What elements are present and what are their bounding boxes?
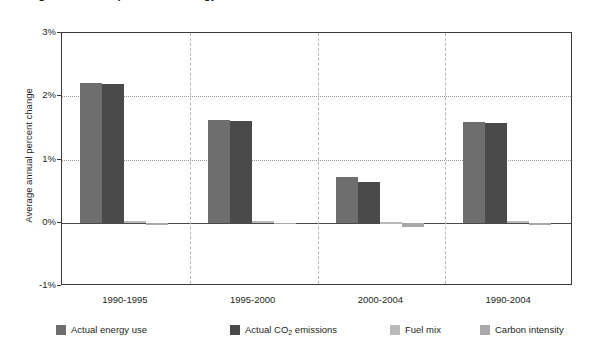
legend-item[interactable]: Actual energy use [56, 322, 147, 338]
group-separator [190, 33, 191, 284]
x-axis-tick-label: 1990-1995 [61, 294, 189, 305]
legend-label: Actual energy use [71, 324, 147, 336]
bar [124, 221, 146, 223]
legend-label: Carbon intensity [495, 324, 564, 336]
bar [230, 121, 252, 223]
bar [358, 182, 380, 223]
legend-label: Actual CO2 emissions [245, 324, 337, 337]
x-axis-tick-label: 1995-2000 [189, 294, 317, 305]
y-axis-tick-label: 0% [20, 216, 56, 227]
bar [252, 221, 274, 223]
bar [402, 223, 424, 227]
bar [485, 123, 507, 222]
bar [529, 223, 551, 225]
bar [274, 223, 296, 225]
group-separator [445, 33, 446, 284]
legend-item[interactable]: Actual CO2 emissions [230, 322, 337, 338]
bar [336, 177, 358, 223]
y-axis-tick-mark [57, 285, 61, 286]
legend-swatch-icon [480, 325, 490, 335]
legend-label: Fuel mix [405, 324, 441, 336]
chart-figure: Figure 2. Decomposition of energy-relate… [0, 0, 591, 355]
bar [380, 222, 402, 224]
x-axis-tick-label: 2000-2004 [317, 294, 445, 305]
y-axis-tick-label: 1% [20, 153, 56, 164]
bar [507, 221, 529, 223]
x-axis-tick-label: 1990-2004 [444, 294, 572, 305]
gridline [62, 96, 571, 97]
plot-area [61, 32, 572, 285]
legend-item[interactable]: Fuel mix [390, 322, 441, 338]
bar [208, 120, 230, 222]
legend-swatch-icon [390, 325, 400, 335]
chart-legend: Actual energy useActual CO2 emissionsFue… [0, 322, 591, 340]
y-axis-tick-label: 3% [20, 26, 56, 37]
y-axis-tick-label: 2% [20, 89, 56, 100]
legend-item[interactable]: Carbon intensity [480, 322, 564, 338]
plot-inner [62, 33, 571, 284]
legend-swatch-icon [230, 325, 240, 335]
y-axis-tick-label: -1% [20, 279, 56, 290]
bar [463, 122, 485, 223]
bar [80, 83, 102, 223]
legend-swatch-icon [56, 325, 66, 335]
group-separator [318, 33, 319, 284]
bar [146, 223, 168, 225]
bar [102, 84, 124, 223]
